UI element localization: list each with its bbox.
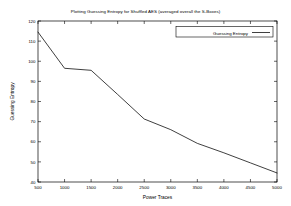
- x-tick-label: 500: [34, 185, 42, 190]
- x-tick-label: 2000: [113, 185, 123, 190]
- chart-figure: Plotting Guessing Entropy for Shuffled A…: [0, 0, 291, 206]
- plot-area: 405060708090100110120 500100015002000250…: [0, 0, 291, 206]
- y-tick-label: 110: [29, 39, 37, 44]
- series-line-guessing-entropy: [38, 32, 277, 173]
- y-tick-label: 120: [28, 19, 36, 24]
- plot-frame: [38, 21, 277, 182]
- x-axis-ticks: 500100015002000250030003500400045005000: [34, 21, 282, 190]
- x-tick-label: 5000: [272, 185, 282, 190]
- y-tick-label: 50: [31, 160, 36, 165]
- y-axis-label: Guessing Entropy: [10, 82, 15, 121]
- x-tick-label: 3000: [166, 185, 176, 190]
- y-tick-label: 80: [31, 99, 36, 104]
- x-axis-label: Power Traces: [143, 195, 173, 200]
- x-tick-label: 3500: [192, 185, 202, 190]
- x-tick-label: 1000: [60, 185, 70, 190]
- y-tick-label: 100: [28, 59, 36, 64]
- x-tick-label: 1500: [86, 185, 96, 190]
- y-tick-label: 90: [31, 79, 36, 84]
- y-tick-label: 60: [31, 139, 36, 144]
- y-tick-label: 70: [31, 119, 36, 124]
- data-series-group: [38, 32, 277, 173]
- legend-label-guessing-entropy: Guessing Entropy: [213, 31, 249, 36]
- x-tick-label: 2500: [139, 185, 149, 190]
- x-tick-label: 4500: [246, 185, 256, 190]
- x-tick-label: 4000: [219, 185, 229, 190]
- y-axis-ticks: 405060708090100110120: [28, 19, 277, 185]
- chart-legend: Guessing Entropy: [176, 27, 273, 38]
